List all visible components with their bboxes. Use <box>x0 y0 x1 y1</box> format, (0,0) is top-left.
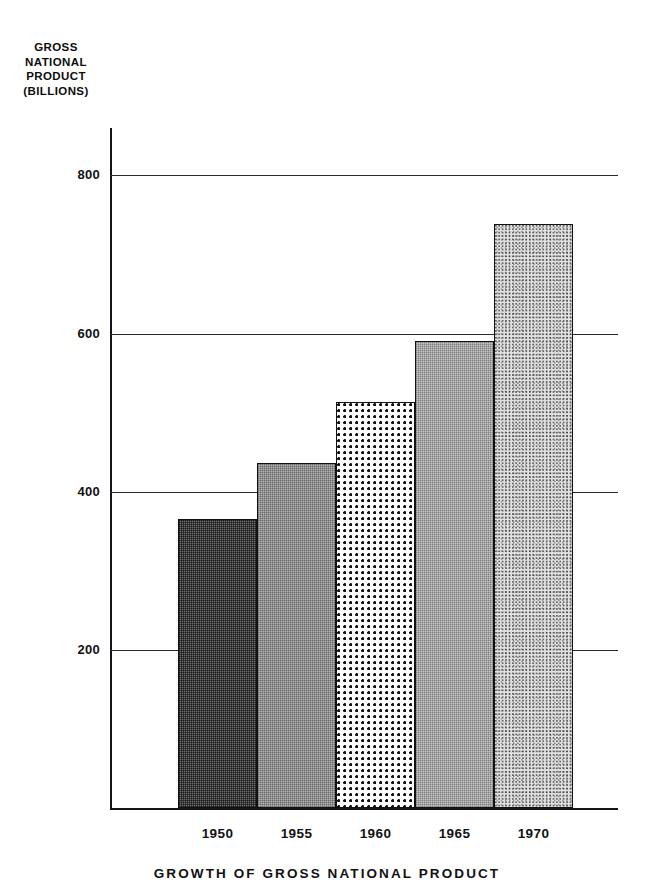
y-axis-title-line-2: NATIONAL <box>6 55 106 70</box>
y-axis-title-line-3: PRODUCT <box>6 69 106 84</box>
x-label-1960: 1960 <box>331 826 421 841</box>
chart-caption: GROWTH OF GROSS NATIONAL PRODUCT <box>0 866 654 881</box>
y-tick-label-200: 200 <box>40 642 100 657</box>
bar-1950 <box>178 519 257 808</box>
x-label-1965: 1965 <box>410 826 500 841</box>
y-axis-line <box>110 128 112 810</box>
gridline-800 <box>110 175 618 176</box>
y-tick-label-400: 400 <box>40 484 100 499</box>
y-tick-label-600: 600 <box>40 326 100 341</box>
y-axis-title-line-1: GROSS <box>6 40 106 55</box>
bar-1960 <box>336 402 415 808</box>
x-label-1955: 1955 <box>252 826 342 841</box>
x-axis-line <box>110 808 618 810</box>
bar-1965 <box>415 341 494 808</box>
y-axis-title-line-4: (BILLIONS) <box>6 84 106 99</box>
x-label-1950: 1950 <box>173 826 263 841</box>
bar-1955 <box>257 463 336 808</box>
x-label-1970: 1970 <box>489 826 579 841</box>
y-axis-title: GROSS NATIONAL PRODUCT (BILLIONS) <box>6 40 106 98</box>
gnp-bar-chart: GROSS NATIONAL PRODUCT (BILLIONS) 200400… <box>0 0 654 896</box>
y-tick-label-800: 800 <box>40 167 100 182</box>
bar-1970 <box>494 224 573 808</box>
plot-area <box>110 128 618 810</box>
